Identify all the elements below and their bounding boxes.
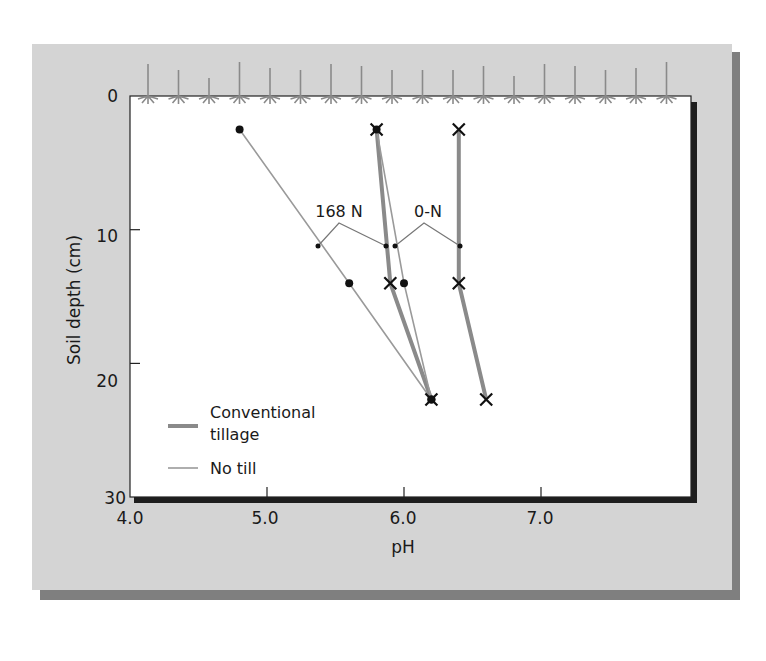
legend-label-conventional-2: tillage bbox=[210, 425, 259, 444]
y-tick-30: 30 bbox=[104, 488, 126, 508]
ph-depth-chart: 0 10 20 30 4.0 5.0 6.0 7.0 pH Soil depth… bbox=[0, 0, 766, 661]
legend-label-conventional-1: Conventional bbox=[210, 403, 315, 422]
legend-label-no-till: No till bbox=[210, 459, 256, 478]
y-tick-20: 20 bbox=[96, 371, 118, 391]
annotation-0n: 0-N bbox=[414, 202, 442, 221]
data-point-dot bbox=[400, 279, 408, 287]
x-axis-title: pH bbox=[391, 537, 415, 557]
x-tick-5: 5.0 bbox=[251, 508, 278, 528]
data-point-dot bbox=[427, 395, 435, 403]
y-tick-0: 0 bbox=[107, 86, 118, 106]
y-tick-10: 10 bbox=[96, 226, 118, 246]
x-tick-6: 6.0 bbox=[389, 508, 416, 528]
x-tick-7: 7.0 bbox=[526, 508, 553, 528]
data-point-dot bbox=[345, 279, 353, 287]
data-point-dot bbox=[236, 125, 244, 133]
x-tick-4: 4.0 bbox=[116, 508, 143, 528]
y-axis-title: Soil depth (cm) bbox=[64, 235, 84, 365]
data-point-dot bbox=[373, 125, 381, 133]
annotation-168n: 168 N bbox=[315, 202, 363, 221]
